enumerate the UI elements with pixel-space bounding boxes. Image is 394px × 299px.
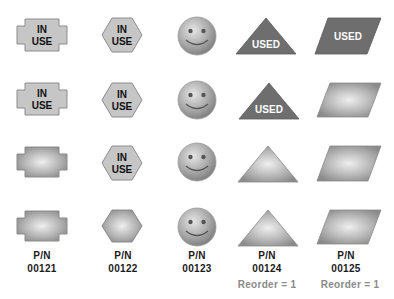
used-parallelogram-r1: USED bbox=[314, 17, 382, 55]
part-label-00123: P/N bbox=[162, 250, 232, 261]
plus-block-gradient-r4 bbox=[15, 210, 69, 242]
in-use-hexagon-r2: IN USE bbox=[101, 82, 143, 118]
part-label-00125: P/N bbox=[311, 250, 381, 261]
triangle-gradient-r3 bbox=[237, 145, 299, 183]
smiley-face-icon-r3 bbox=[177, 142, 217, 182]
in-label: IN bbox=[37, 88, 47, 99]
part-number-00122: 00122 bbox=[88, 263, 158, 274]
part-number-00123: 00123 bbox=[162, 263, 232, 274]
used-triangle-r2: USED bbox=[238, 82, 300, 120]
used-label: USED bbox=[252, 39, 280, 50]
use-label: USE bbox=[112, 164, 133, 175]
use-label: USE bbox=[32, 36, 53, 47]
part-number-00125: 00125 bbox=[311, 263, 381, 274]
used-label: USED bbox=[255, 104, 283, 115]
use-label: USE bbox=[112, 101, 133, 112]
use-label: USE bbox=[32, 100, 53, 111]
smiley-face-icon-r1 bbox=[177, 16, 217, 56]
parallelogram-gradient-r2 bbox=[316, 82, 382, 118]
in-label: IN bbox=[117, 152, 127, 163]
part-number-00124: 00124 bbox=[232, 263, 302, 274]
parallelogram-gradient-r4 bbox=[316, 209, 382, 245]
part-label-00121: P/N bbox=[7, 250, 77, 261]
reorder-label-00124: Reorder = 1 bbox=[227, 279, 307, 290]
reorder-label-00125: Reorder = 1 bbox=[310, 279, 390, 290]
in-label: IN bbox=[117, 24, 127, 35]
plus-block-gradient-r3 bbox=[15, 146, 69, 178]
used-label: USED bbox=[334, 31, 362, 42]
use-label: USE bbox=[112, 36, 133, 47]
parallelogram-gradient-r3 bbox=[316, 145, 382, 182]
in-use-hexagon-r3: IN USE bbox=[101, 145, 143, 181]
hexagon-gradient-r4 bbox=[101, 209, 143, 243]
part-label-00124: P/N bbox=[232, 250, 302, 261]
triangle-gradient-r4 bbox=[237, 209, 299, 247]
in-label: IN bbox=[117, 89, 127, 100]
smiley-face-icon-r2 bbox=[177, 80, 217, 120]
part-number-00121: 00121 bbox=[7, 263, 77, 274]
used-triangle-r1: USED bbox=[235, 17, 297, 55]
in-label: IN bbox=[37, 24, 47, 35]
in-use-hexagon-r1: IN USE bbox=[101, 17, 143, 53]
part-label-00122: P/N bbox=[88, 250, 158, 261]
in-use-plus-block-r2: IN USE bbox=[15, 82, 69, 116]
smiley-face-icon-r4 bbox=[177, 207, 217, 247]
in-use-plus-block-r1: IN USE bbox=[15, 18, 69, 52]
